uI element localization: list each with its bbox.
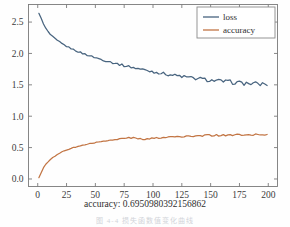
x-tick-label: 75 [119, 190, 129, 200]
x-tick-label: 25 [62, 190, 72, 200]
chart-legend[interactable]: lossaccuracy [197, 7, 275, 38]
x-tick-label: 50 [91, 190, 101, 200]
legend-label-loss: loss [223, 12, 238, 22]
y-tick-label: 2.5 [12, 17, 24, 27]
line-chart-svg: 02550751001251501752000.00.51.01.52.02.5… [0, 0, 290, 227]
x-tick-label: 200 [261, 190, 276, 200]
tick-labels: 02550751001251501752000.00.51.01.52.02.5 [12, 17, 276, 199]
y-tick-label: 0.0 [12, 174, 24, 184]
y-tick-label: 0.5 [12, 143, 24, 153]
x-tick-label: 0 [35, 190, 40, 200]
x-tick-label: 175 [232, 190, 247, 200]
x-tick-label: 150 [204, 190, 219, 200]
y-tick-label: 1.0 [12, 112, 24, 122]
y-tick-label: 2.0 [12, 49, 24, 59]
series-line-accuracy [39, 134, 267, 178]
chart-figure: 02550751001251501752000.00.51.01.52.02.5… [0, 0, 290, 227]
x-tick-label: 125 [175, 190, 190, 200]
y-tick-label: 1.5 [12, 80, 24, 90]
figure-caption: 图 4-4 损失函数值变化曲线 [0, 215, 290, 227]
x-axis-label: accuracy: 0.6950980392156862 [84, 199, 206, 209]
legend-label-accuracy: accuracy [223, 25, 255, 35]
x-tick-label: 100 [146, 190, 161, 200]
